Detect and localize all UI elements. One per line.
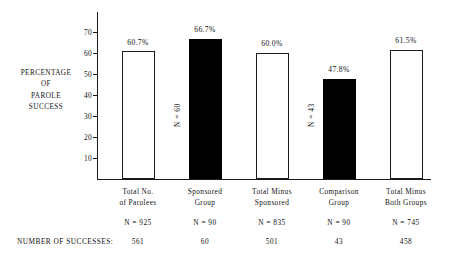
x-category-5-line-1: Total Minus [366,186,446,197]
bar-total-no-of-parolees[interactable] [122,51,155,179]
bar-total-minus-sponsored[interactable] [256,53,289,179]
x-category-total-minus-both-groups: Total Minus Both Groups [366,186,446,208]
y-tick-label-70: 70 [72,28,92,37]
bar-sponsored-group[interactable] [189,39,222,179]
bar-value-label-3: 60.0% [238,39,306,48]
y-tick-label-50: 50 [72,70,92,79]
bar-value-label-5: 61.5% [372,36,440,45]
bar-value-label-4: 47.8% [305,65,373,74]
x-category-5-line-2: Both Groups [366,197,446,208]
number-of-successes-row: NUMBER OF SUCCESSES: 561 60 501 43 458 [0,237,456,251]
y-tick-mark-10 [93,158,97,159]
bar-total-minus-both-groups[interactable] [390,50,423,179]
y-tick-label-10: 10 [72,154,92,163]
bar-value-label-2: 66.7% [171,25,239,34]
y-tick-mark-70 [93,32,97,33]
plot-area: 70 60 50 40 30 20 10 60.7% 66.7% N = 60 … [97,12,431,180]
sample-size-row: N = 925 N = 90 N = 835 N = 90 N = 745 [97,218,431,230]
sample-size-total-minus-both-groups: N = 745 [366,218,446,227]
y-axis-title-line-2: OF [6,79,86,90]
bar-inner-n-label-comparison-group: N = 43 [307,103,316,127]
y-tick-mark-20 [93,137,97,138]
successes-total-minus-both-groups: 458 [366,237,446,246]
y-tick-label-30: 30 [72,112,92,121]
parole-success-bar-chart: PERCENTAGE OF PAROLE SUCCESS 70 60 50 40… [0,0,456,263]
y-axis-line [97,12,98,180]
y-tick-mark-60 [93,53,97,54]
y-tick-label-20: 20 [72,133,92,142]
bar-inner-n-label-sponsored-group: N = 60 [173,103,182,127]
y-tick-mark-50 [93,74,97,75]
y-tick-label-60: 60 [72,49,92,58]
x-axis-line [97,179,431,180]
y-tick-mark-40 [93,95,97,96]
x-axis-category-labels: Total No. of Parolees Sponsored Group To… [97,186,431,210]
bar-comparison-group[interactable] [323,79,356,179]
y-tick-mark-30 [93,116,97,117]
y-tick-label-40: 40 [72,91,92,100]
bar-value-label-1: 60.7% [104,38,172,47]
